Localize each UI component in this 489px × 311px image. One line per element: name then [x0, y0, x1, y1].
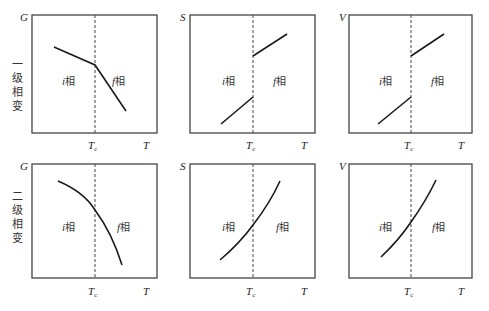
svg-text:S: S: [180, 11, 186, 23]
panel-first-order-S: S i相 f相 Tc T: [180, 11, 315, 153]
svg-text:G: G: [20, 160, 28, 172]
tc-label: Tc: [246, 285, 255, 299]
phase-i-label: i相: [222, 75, 235, 87]
tc-label: Tc: [404, 285, 413, 299]
phase-transition-diagram: 一 级 相 变 二 级 相 变 G i相 f相 Tc T S i相 f相 Tc …: [0, 0, 489, 311]
row-label-first-order: 一 级 相 变: [12, 58, 23, 113]
svg-text:一: 一: [12, 58, 23, 71]
s-curve-i-phase: [221, 97, 253, 124]
phase-i-label: i相: [379, 221, 392, 233]
tc-label: Tc: [88, 285, 97, 299]
panel-first-order-G: G i相 f相 Tc T: [20, 11, 157, 153]
phase-f-label: f相: [273, 75, 286, 87]
panel-first-order-V: V i相 f相 Tc T: [339, 11, 472, 153]
svg-text:二: 二: [12, 190, 23, 203]
row-label-second-order: 二 级 相 变: [12, 190, 23, 245]
svg-text:级: 级: [12, 72, 23, 85]
svg-text:变: 变: [12, 99, 23, 113]
s-curve: [220, 181, 280, 260]
svg-text:S: S: [180, 160, 186, 172]
x-axis-label: T: [458, 139, 465, 151]
svg-text:相: 相: [12, 86, 23, 99]
x-axis-label: T: [143, 285, 150, 297]
phase-i-label: i相: [222, 221, 235, 233]
svg-text:V: V: [339, 160, 347, 172]
tc-label: Tc: [246, 139, 255, 153]
x-axis-label: T: [301, 139, 308, 151]
svg-text:V: V: [339, 11, 347, 23]
svg-text:G: G: [20, 11, 28, 23]
panel-second-order-S: S i相 f相 Tc T: [180, 160, 315, 299]
x-axis-label: T: [458, 285, 465, 297]
panel-second-order-G: G i相 f相 Tc T: [20, 160, 157, 299]
phase-f-label: f相: [112, 75, 125, 87]
svg-text:变: 变: [12, 231, 23, 245]
panel-second-order-V: V i相 f相 Tc T: [339, 160, 472, 299]
tc-label: Tc: [404, 139, 413, 153]
phase-f-label: f相: [431, 75, 444, 87]
phase-f-label: f相: [117, 221, 130, 233]
phase-f-label: f相: [432, 221, 445, 233]
x-axis-label: T: [301, 285, 308, 297]
v-curve: [381, 180, 436, 257]
phase-i-label: i相: [62, 75, 75, 87]
v-curve-i-phase: [378, 97, 411, 124]
phase-i-label: i相: [62, 221, 75, 233]
x-axis-label: T: [143, 139, 150, 151]
svg-text:相: 相: [12, 218, 23, 231]
svg-text:级: 级: [12, 204, 23, 217]
s-curve-f-phase: [253, 34, 287, 56]
v-curve-f-phase: [411, 34, 444, 56]
phase-i-label: i相: [379, 75, 392, 87]
phase-f-label: f相: [276, 221, 289, 233]
tc-label: Tc: [88, 139, 97, 153]
